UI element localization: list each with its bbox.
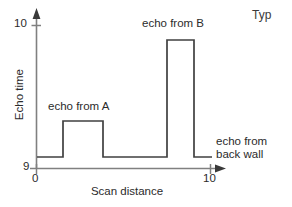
y-axis-arrowhead: [33, 8, 41, 19]
x-axis-arrowhead: [215, 164, 226, 172]
y-tick-label-10: 10: [14, 17, 27, 30]
annotation-echo-from-b: echo from B: [142, 17, 204, 30]
echo-trace-polyline: [37, 40, 212, 157]
x-tick-label-0: 0: [32, 172, 38, 185]
echo-time-scan-distance-chart: Echo time Scan distance 10 9 0 10 echo f…: [0, 0, 292, 207]
annotation-echo-from-back-wall: echo from back wall: [216, 135, 267, 161]
annotation-back-wall-line-1: echo from: [216, 135, 267, 148]
annotation-back-wall-line-2: back wall: [216, 148, 267, 161]
corner-note-text: Typ: [252, 9, 271, 23]
y-axis-title: Echo time: [13, 57, 26, 133]
y-tick-label-9: 9: [23, 160, 29, 173]
chart-canvas: [0, 0, 292, 207]
x-axis-title: Scan distance: [62, 185, 192, 198]
x-tick-label-10: 10: [203, 172, 216, 185]
annotation-echo-from-a: echo from A: [48, 100, 109, 113]
